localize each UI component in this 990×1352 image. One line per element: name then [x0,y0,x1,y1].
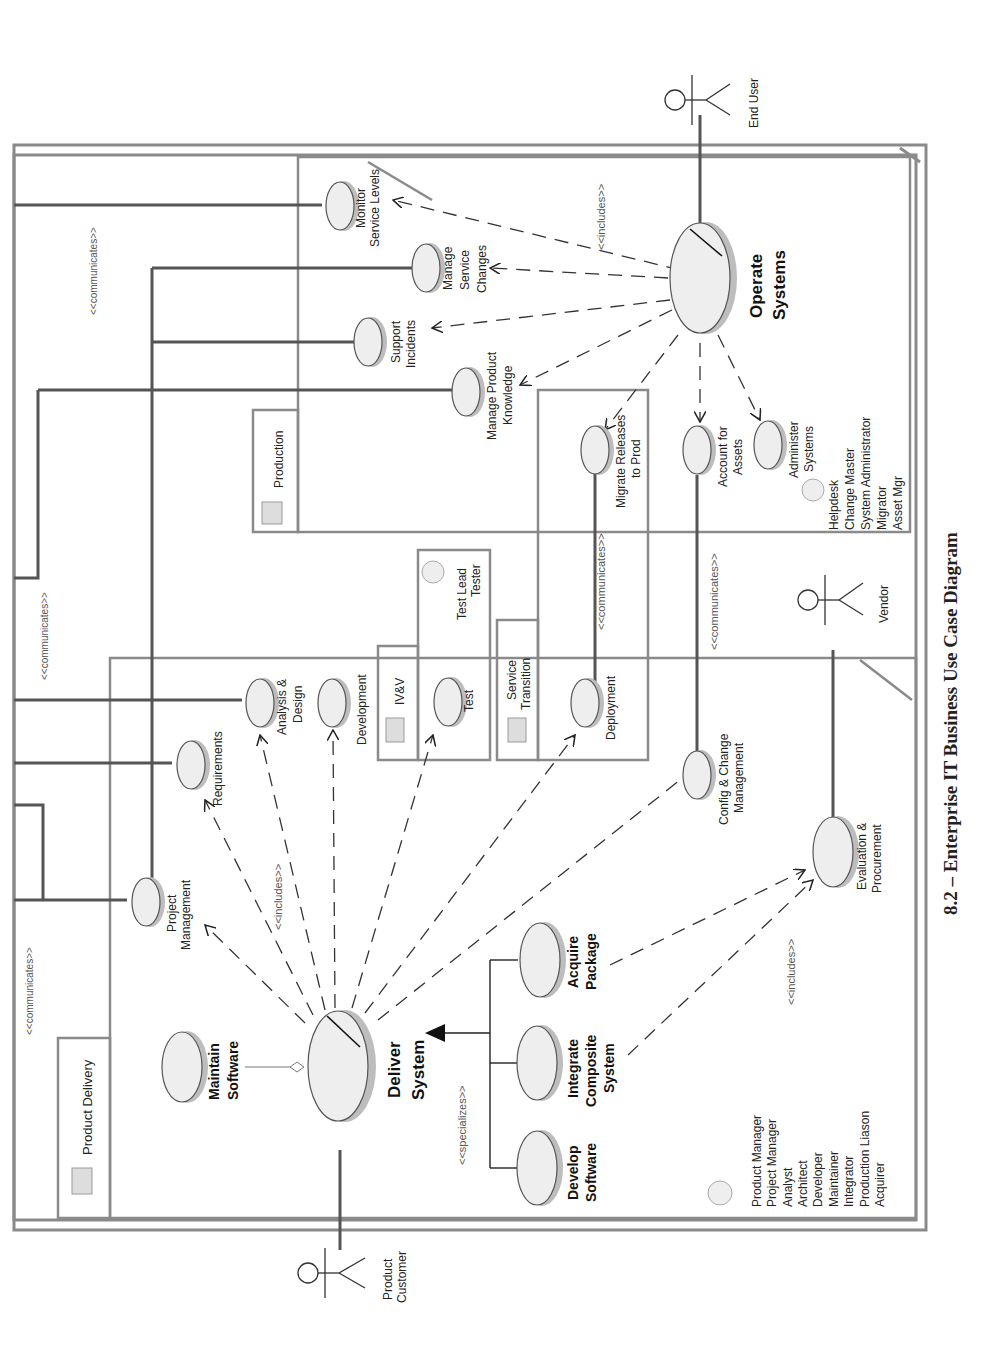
diagram-title: 8.2 – Enterprise IT Business Use Case Di… [940,532,961,915]
actor-label: End User [747,78,761,128]
package-label-production: Production [272,431,286,488]
svg-text:Product Manager: Product Manager [750,1115,764,1207]
package-label-transition: Transition [519,658,533,710]
svg-text:Asset Mgr: Asset Mgr [891,476,905,530]
use-case-migrate-releases[interactable]: Migrate Releases to Prod [581,415,643,508]
use-case-manage-product-knowledge[interactable]: Manage Product Knowledge [452,351,515,440]
stereotype-includes: <<includes>> [785,939,797,1005]
svg-text:Deployment: Deployment [604,675,618,740]
svg-text:Administer: Administer [787,421,801,478]
worker-icon [802,479,824,501]
svg-text:Evaluation &: Evaluation & [855,823,869,890]
use-case-deliver-system[interactable]: Deliver System [308,1010,428,1122]
stereotype-communicates: <<communicates>> [39,592,50,680]
svg-text:Software: Software [225,1041,241,1100]
svg-text:Project Manager: Project Manager [765,1119,779,1207]
svg-text:System Administrator: System Administrator [859,417,873,530]
use-case-monitor-service-levels[interactable]: Monitor Service Levels [326,169,382,247]
use-case-maintain-software[interactable]: Maintain Software [162,1031,241,1103]
worker-icon [422,561,444,583]
stereotype-communicates: <<communicates>> [88,227,99,315]
svg-text:Migrate Releases: Migrate Releases [614,415,628,508]
worker-roles-production: Helpdesk Change Master System Administra… [802,417,905,530]
svg-text:Requirements: Requirements [211,731,225,806]
svg-text:Management: Management [732,742,746,813]
svg-text:Develop: Develop [565,1146,581,1200]
actor-end-user[interactable]: End User [665,75,761,128]
svg-text:Analyst: Analyst [781,1167,795,1207]
svg-text:Integrator: Integrator [842,1156,856,1207]
svg-text:Knowledge: Knowledge [501,365,515,425]
use-case-manage-service-changes[interactable]: Manage Service Changes [412,243,489,293]
use-case-config-change-management[interactable]: Config & Change Management [683,733,746,825]
package-icon [386,718,404,742]
stereotype-specializes: <<specializes>> [456,1086,468,1166]
use-case-project-management[interactable]: Project Management [132,877,193,950]
worker-roles-product-delivery: Product Manager Project Manager Analyst … [708,1111,887,1207]
actor-vendor[interactable]: Vendor [798,575,891,625]
svg-text:Service Levels: Service Levels [368,169,382,247]
use-case-acquire-package[interactable]: Acquire Package [520,922,599,998]
svg-text:Composite: Composite [583,1034,599,1107]
aggregation-line [245,1062,304,1072]
stereotype-includes: <<includes>> [272,864,284,930]
use-case-support-incidents[interactable]: Support Incidents [354,317,418,368]
svg-text:Manage: Manage [441,246,455,290]
package-label-ivv: IV&V [393,678,407,705]
use-case-requirements[interactable]: Requirements [177,731,225,806]
svg-text:Config & Change: Config & Change [717,733,731,825]
svg-text:Integrate: Integrate [565,1039,581,1098]
svg-text:Operate: Operate [747,254,766,318]
use-case-administer-systems[interactable]: Administer Systems [754,420,816,478]
svg-text:Analysis &: Analysis & [275,679,289,735]
svg-text:Monitor: Monitor [354,188,368,228]
actor-head-icon [798,590,818,610]
actor-product-customer[interactable]: Product Customer [298,1248,409,1303]
worker-icon [708,1181,732,1205]
svg-text:Assets: Assets [731,439,745,475]
svg-text:Design: Design [291,686,305,723]
package-icon [262,502,282,524]
package-icon [72,1168,92,1194]
package-label-service: Service [505,660,519,700]
actor-label: Vendor [877,585,891,623]
role-test-lead: Test Lead [455,568,469,620]
actor-label: Product [381,1258,395,1300]
svg-text:Systems: Systems [802,426,816,472]
svg-text:System: System [601,1043,617,1093]
svg-text:Manage Product: Manage Product [485,351,499,440]
use-case-integrate-composite-system[interactable]: Integrate Composite System [517,1025,617,1107]
svg-text:Incidents: Incidents [404,320,418,368]
svg-text:Architect: Architect [796,1160,810,1207]
svg-text:Maintain: Maintain [206,1043,222,1100]
use-case-development[interactable]: Development [318,674,369,745]
stereotype-communicates: <<communicates>> [24,947,35,1035]
use-case-evaluation-procurement[interactable]: Evaluation & Procurement [813,816,884,893]
svg-text:Systems: Systems [770,250,789,320]
role-tester: Tester [469,564,483,597]
svg-text:Package: Package [583,933,599,990]
svg-text:Development: Development [355,674,369,745]
actor-label: Customer [395,1251,409,1303]
use-case-diagram: Production Product Delivery IV&V Test Le… [0,0,990,1352]
svg-text:Test: Test [462,689,476,712]
actor-head-icon [665,90,685,110]
svg-text:Service: Service [458,250,472,290]
svg-text:Acquire: Acquire [565,936,581,988]
svg-text:Project: Project [165,894,179,932]
use-case-analysis-design[interactable]: Analysis & Design [246,678,305,735]
package-ivv[interactable]: IV&V Test Lead Tester [378,550,490,760]
stereotype-communicates: <<communicates>> [708,553,720,650]
stereotype-communicates: <<communicates>> [595,533,607,630]
generalization-tree [425,960,518,1168]
svg-text:Management: Management [179,879,193,950]
svg-text:to Prod: to Prod [629,439,643,478]
use-case-operate-systems[interactable]: Operate Systems [670,222,789,334]
use-case-account-for-assets[interactable]: Account for Assets [683,425,745,487]
svg-text:System: System [409,1040,428,1100]
use-case-deployment[interactable]: Deployment [571,675,618,740]
use-case-develop-software[interactable]: Develop Software [517,1130,599,1206]
package-label-product-delivery: Product Delivery [80,1059,95,1155]
use-case-test[interactable]: Test [434,677,476,727]
svg-text:Changes: Changes [475,245,489,293]
